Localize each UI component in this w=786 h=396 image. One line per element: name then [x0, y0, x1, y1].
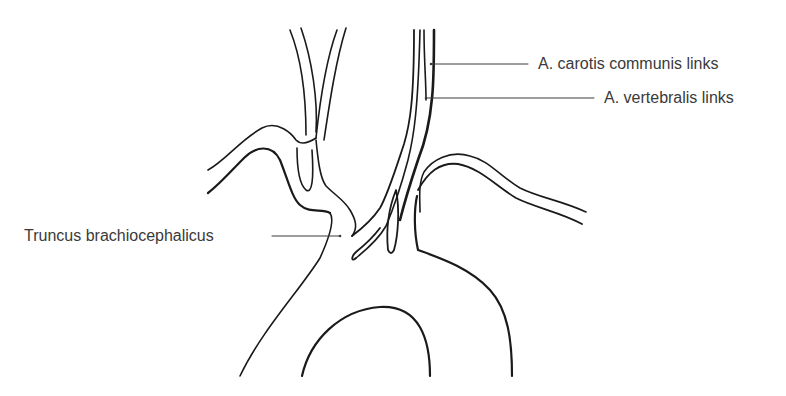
right-carotid-outer	[290, 30, 306, 135]
leader-dot-carotis	[430, 63, 433, 66]
label-truncus-brachiocephalicus: Truncus brachiocephalicus	[24, 227, 214, 245]
truncus-right-wall	[316, 140, 356, 236]
leader-dot-vertebralis	[425, 97, 428, 100]
label-a-vertebralis: A. vertebralis links	[604, 89, 734, 107]
left-subclavian-outer	[420, 154, 586, 212]
anatomy-diagram: A. carotis communis links A. vertebralis…	[0, 0, 786, 396]
left-carotid-line-a	[424, 30, 426, 100]
aorta-right-wall	[415, 196, 512, 376]
aorta-inner-arch	[302, 307, 430, 376]
leader-dot-truncus	[339, 235, 342, 238]
left-carotid-line-b	[400, 30, 434, 220]
vertebral-loop	[387, 190, 398, 253]
label-a-carotis-communis: A. carotis communis links	[538, 55, 719, 73]
right-carotid-2b	[324, 28, 346, 140]
right-vertebral-loop	[297, 148, 313, 191]
aorta-left-wall	[240, 213, 332, 376]
